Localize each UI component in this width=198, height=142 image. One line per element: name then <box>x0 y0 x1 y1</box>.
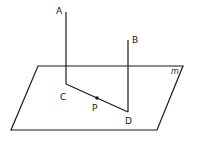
label-a: A <box>56 6 63 16</box>
label-d: D <box>125 116 132 126</box>
label-b: B <box>132 35 138 45</box>
label-p: P <box>92 103 98 113</box>
point-p-dot <box>95 96 99 100</box>
label-plane-m: m <box>171 67 179 76</box>
geometry-diagram: A B m C P D <box>0 0 198 142</box>
label-c: C <box>60 92 66 102</box>
